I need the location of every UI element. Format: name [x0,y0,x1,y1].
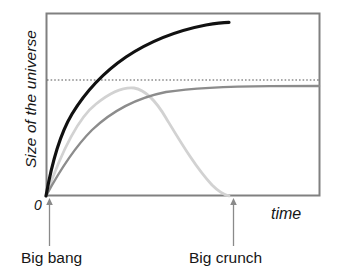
cosmology-expansion-figure: Size of the universe time 0 Big bang Big… [0,0,338,277]
origin-label: 0 [34,197,42,213]
big-crunch-arrow-icon [230,198,237,246]
axis-frame [47,14,320,196]
big-crunch-label: Big crunch [189,249,262,267]
big-bang-arrow-icon [46,198,53,246]
x-axis-label: time [271,205,301,223]
plot-canvas [0,0,338,277]
y-axis-label: Size of the universe [22,4,40,194]
big-bang-label: Big bang [21,249,82,267]
